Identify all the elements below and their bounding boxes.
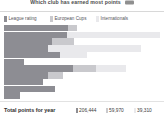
- footer-divider: [0, 101, 164, 102]
- page-title: Which club has earned most points: [30, 0, 121, 5]
- bar-segment[interactable]: [4, 32, 67, 38]
- chart-legend: League rating European Cups Internationa…: [4, 16, 162, 22]
- total-cell-league-rating: 206,444: [76, 108, 106, 113]
- total-swatch-icon: [134, 108, 136, 113]
- total-cell-internationals: 39,310: [134, 108, 162, 113]
- bar-segment[interactable]: [48, 72, 64, 78]
- bar-segment[interactable]: [4, 59, 24, 65]
- bar-segment[interactable]: [4, 92, 20, 98]
- bar-row[interactable]: [4, 25, 160, 31]
- total-swatch-icon: [76, 108, 78, 113]
- bar-segment[interactable]: [48, 45, 142, 51]
- bar-segment[interactable]: [4, 25, 68, 31]
- chart-widget: Which club has earned most points League…: [0, 0, 164, 120]
- stacked-bar-plot: [4, 25, 160, 99]
- bar-row[interactable]: [4, 38, 160, 44]
- bar-row[interactable]: [4, 86, 160, 92]
- total-value: 59,970: [109, 108, 124, 113]
- bar-segment[interactable]: [4, 86, 55, 92]
- total-points-label: Total points for year: [4, 107, 76, 113]
- bar-segment[interactable]: [73, 65, 96, 71]
- legend-item-internationals[interactable]: Internationals: [96, 16, 152, 22]
- totals-row: Total points for year 206,444 59,970 39,…: [4, 104, 162, 116]
- widget-title-bar: Which club has earned most points: [0, 0, 164, 7]
- bar-segment[interactable]: [52, 38, 74, 44]
- bar-row[interactable]: [4, 59, 160, 65]
- legend-item-european-cups[interactable]: European Cups: [50, 16, 96, 22]
- legend-swatch-icon: [96, 16, 99, 22]
- bar-row[interactable]: [4, 72, 160, 78]
- bar-row[interactable]: [4, 65, 160, 71]
- bar-segment[interactable]: [4, 72, 48, 78]
- total-cell-european-cups: 59,970: [106, 108, 134, 113]
- bar-row[interactable]: [4, 52, 160, 58]
- bar-row[interactable]: [4, 45, 160, 51]
- bar-segment[interactable]: [4, 38, 52, 44]
- legend-swatch-icon: [4, 16, 7, 22]
- legend-item-label: Internationals: [101, 16, 129, 22]
- bar-segment[interactable]: [68, 25, 77, 31]
- menu-badge-icon[interactable]: [125, 1, 134, 5]
- bar-segment[interactable]: [96, 65, 126, 71]
- total-swatch-icon: [106, 108, 108, 113]
- total-value: 39,310: [137, 108, 152, 113]
- bar-segment[interactable]: [4, 45, 48, 51]
- bar-row[interactable]: [4, 92, 160, 98]
- bar-segment[interactable]: [4, 79, 43, 85]
- bar-segment[interactable]: [60, 52, 87, 58]
- header-divider: [0, 11, 164, 12]
- bar-segment[interactable]: [4, 65, 73, 71]
- total-value: 206,444: [79, 108, 96, 113]
- bar-row[interactable]: [4, 32, 160, 38]
- bar-row[interactable]: [4, 79, 160, 85]
- bar-segment[interactable]: [67, 32, 160, 38]
- legend-item-label: League rating: [9, 16, 37, 22]
- bar-segment[interactable]: [4, 52, 60, 58]
- legend-item-label: European Cups: [55, 16, 87, 22]
- legend-item-league-rating[interactable]: League rating: [4, 16, 50, 22]
- legend-swatch-icon: [50, 16, 53, 22]
